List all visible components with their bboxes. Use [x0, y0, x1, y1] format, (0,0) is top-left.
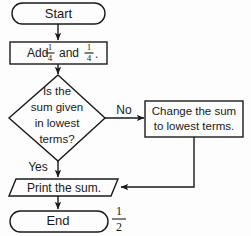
node-start-label: Start — [45, 6, 73, 21]
flowchart-canvas: Start Add 1 4 and 1 4 . Is the — [0, 0, 251, 236]
node-decision[interactable]: Is the sum given in lowest terms? — [9, 75, 105, 161]
annotation-answer-fraction: 1 2 — [112, 204, 126, 234]
node-add-label-prefix: Add — [27, 46, 48, 60]
fraction-2-numerator: 1 — [87, 42, 92, 52]
node-decision-line2: sum given — [31, 101, 83, 113]
node-change-line1: Change the sum — [152, 105, 236, 117]
node-start[interactable]: Start — [12, 3, 105, 24]
node-add[interactable]: Add 1 4 and 1 4 . — [10, 42, 107, 64]
node-decision-line3: in lowest — [35, 117, 81, 129]
node-print-label: Print the sum. — [27, 181, 101, 195]
connector-change-to-print — [121, 137, 194, 187]
edge-label-no: No — [116, 103, 132, 117]
node-add-label-middle: and — [59, 46, 79, 60]
node-decision-line4: terms? — [39, 133, 74, 145]
node-end-label: End — [46, 213, 69, 228]
node-change-line2: to lowest terms. — [154, 120, 235, 132]
fraction-1-denominator: 4 — [48, 53, 53, 63]
edge-label-yes: Yes — [28, 160, 48, 174]
node-add-label-suffix: . — [95, 47, 98, 61]
fraction-1-numerator: 1 — [48, 42, 53, 52]
node-change[interactable]: Change the sum to lowest terms. — [145, 101, 243, 137]
fraction-2-denominator: 4 — [87, 53, 92, 63]
node-end[interactable]: End — [10, 211, 108, 232]
node-decision-line1: Is the — [43, 85, 71, 97]
answer-fraction-denominator: 2 — [116, 220, 122, 234]
node-print[interactable]: Print the sum. — [9, 179, 118, 196]
flowchart-diagram: Start Add 1 4 and 1 4 . Is the — [0, 0, 251, 236]
answer-fraction-numerator: 1 — [116, 204, 122, 218]
